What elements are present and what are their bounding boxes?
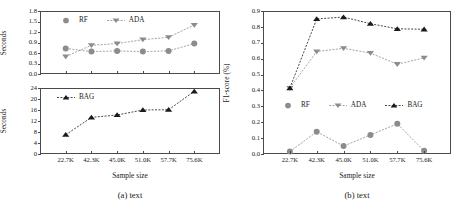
y-axis-tick-mark — [261, 138, 264, 139]
y-axis-tick-label: 4 — [14, 140, 37, 147]
y-axis-tick-label: 20 — [14, 96, 37, 103]
x-axis-tick-mark — [397, 151, 398, 154]
y-axis-tick-label: 8 — [14, 129, 37, 136]
legend-entry-bag: BAG — [56, 93, 94, 102]
data-point-marker — [340, 14, 347, 19]
series-line-bag — [290, 17, 424, 88]
data-point-marker — [62, 132, 69, 137]
legend-label-ada: ADA — [351, 102, 367, 109]
subfigure-a-caption: (a) text — [40, 190, 220, 200]
y-axis-tick-mark — [261, 106, 264, 107]
legend-entry-rf: RF — [278, 101, 310, 110]
x-axis-label-a: Sample size — [40, 171, 220, 180]
legend-marker-ada — [328, 101, 348, 110]
legend-label-rf: RF — [301, 102, 310, 109]
y-axis-tick-label: 24 — [14, 85, 37, 92]
y-axis-tick-label: 0.6 — [237, 55, 260, 62]
y-axis-tick-label: 12 — [14, 118, 37, 125]
data-point-marker — [394, 121, 400, 127]
y-axis-tick-label: 0.2 — [237, 119, 260, 126]
x-axis-tick-mark — [91, 151, 92, 154]
data-point-marker — [191, 89, 198, 94]
x-axis-tick-mark — [194, 151, 195, 154]
legend-entry-bag: BAG — [384, 101, 422, 110]
x-axis-tick-mark — [290, 151, 291, 154]
y-axis-tick-mark — [261, 27, 264, 28]
legend-marker-rf — [278, 101, 298, 110]
x-axis-tick-mark — [143, 151, 144, 154]
legend-label-bag: BAG — [79, 94, 94, 101]
x-axis-tick-mark — [317, 151, 318, 154]
figure-root: 1.81.51.20.90.60.30.0 Seconds RFADA 2420… — [0, 0, 462, 212]
x-axis-tick-label: 75.6K — [178, 157, 210, 164]
data-point-marker — [341, 143, 347, 149]
legend-label-bag: BAG — [407, 102, 422, 109]
subfigure-b: 0.90.80.70.60.50.40.30.20.10.0 F1-score … — [231, 0, 462, 212]
y-axis-tick-label: 0.1 — [237, 135, 260, 142]
y-axis-tick-mark — [38, 88, 41, 89]
y-axis-tick-mark — [261, 11, 264, 12]
y-axis-tick-label: 0.0 — [237, 151, 260, 158]
series-line-ada — [290, 48, 424, 88]
data-point-marker — [313, 49, 320, 54]
y-axis-tick-mark — [38, 121, 41, 122]
legend-a-bottom: BAG — [56, 93, 108, 102]
y-axis-tick-label: 0.4 — [237, 87, 260, 94]
legend-b: RFADABAG — [278, 101, 437, 110]
y-axis-tick-label: 0.5 — [237, 71, 260, 78]
x-axis-tick-mark — [344, 151, 345, 154]
x-axis-tick-label: 75.6K — [408, 157, 440, 164]
y-axis-tick-label: 0 — [14, 151, 37, 158]
series-line-rf — [290, 124, 424, 152]
y-axis-label-a-bottom: Seconds — [0, 109, 8, 134]
y-axis-tick-mark — [38, 132, 41, 133]
data-point-marker — [88, 115, 95, 120]
y-axis-tick-label: 16 — [14, 107, 37, 114]
y-axis-tick-mark — [38, 110, 41, 111]
subfigure-b-caption: (b) text — [263, 190, 451, 200]
data-point-marker — [367, 132, 373, 138]
x-axis-tick-mark — [117, 151, 118, 154]
y-axis-tick-mark — [38, 99, 41, 100]
data-point-marker — [314, 129, 320, 135]
y-axis-tick-mark — [38, 143, 41, 144]
legend-entry-ada: ADA — [328, 101, 367, 110]
y-axis-tick-mark — [38, 154, 41, 155]
subfigure-a: 1.81.51.20.90.60.30.0 Seconds RFADA 2420… — [0, 0, 231, 212]
x-axis-label-b: Sample size — [263, 171, 451, 180]
x-axis-tick-mark — [66, 151, 67, 154]
legend-marker-bag — [56, 93, 76, 102]
y-axis-tick-mark — [261, 59, 264, 60]
legend-marker-bag — [384, 101, 404, 110]
y-axis-tick-mark — [261, 75, 264, 76]
x-axis-tick-mark — [169, 151, 170, 154]
y-axis-tick-label: 0.3 — [237, 103, 260, 110]
y-axis-tick-label: 0.9 — [237, 8, 260, 15]
y-axis-tick-mark — [261, 122, 264, 123]
data-point-marker — [367, 51, 374, 56]
data-point-marker — [394, 62, 401, 67]
y-axis-tick-mark — [261, 90, 264, 91]
y-axis-label-b: F1-score (%) — [223, 63, 231, 102]
x-axis-tick-mark — [370, 151, 371, 154]
y-axis-tick-label: 0.8 — [237, 24, 260, 31]
data-point-marker — [285, 103, 291, 109]
y-axis-tick-label: 0.7 — [237, 39, 260, 46]
y-axis-tick-mark — [261, 154, 264, 155]
x-axis-tick-mark — [424, 151, 425, 154]
y-axis-tick-mark — [261, 43, 264, 44]
